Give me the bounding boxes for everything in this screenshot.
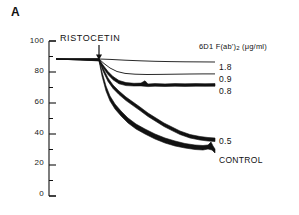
curve-0-5 <box>56 59 215 142</box>
stimulus-arrow-icon <box>96 45 102 60</box>
curve-0-8 <box>56 59 215 87</box>
plot-area <box>0 0 299 215</box>
y-axis-minor-ticks <box>49 57 53 181</box>
curve-0-9 <box>56 59 215 75</box>
figure-panel-a: A RISTOCETIN 6D1 F(ab')2 (μg/ml) 100 80 … <box>0 0 299 215</box>
